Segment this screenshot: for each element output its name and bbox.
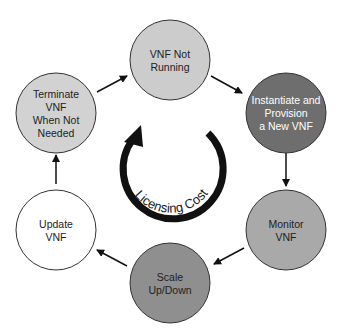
node-label-line: Needed xyxy=(38,127,75,139)
edge-monitor-to-scale xyxy=(214,248,244,264)
edge-scale-to-update xyxy=(97,250,127,266)
nodes: VNF NotRunningInstantiate andProvisiona … xyxy=(16,20,326,323)
node-update: UpdateVNF xyxy=(16,190,96,270)
node-label-line: Instantiate and xyxy=(252,94,321,106)
node-label-line: VNF xyxy=(46,231,67,243)
node-label-line: Up/Down xyxy=(148,284,191,296)
node-label-line: Terminate xyxy=(33,88,79,100)
node-instantiate: Instantiate andProvisiona New VNF xyxy=(246,73,326,153)
edge-not-running-to-instantiate xyxy=(211,76,242,93)
node-not-running: VNF NotRunning xyxy=(130,20,210,100)
node-label-line: Update xyxy=(39,218,73,230)
node-label-line: Provision xyxy=(264,107,307,119)
node-label-line: When Not xyxy=(33,114,80,126)
node-label-line: Monitor xyxy=(268,218,304,230)
node-label-line: VNF xyxy=(276,231,297,243)
licensing-cost-cycle: Licensing Cost xyxy=(123,125,223,219)
node-scale: ScaleUp/Down xyxy=(130,243,210,323)
edge-terminate-to-not-running xyxy=(97,76,127,92)
node-monitor: MonitorVNF xyxy=(246,190,326,270)
node-label-line: Running xyxy=(150,61,189,73)
node-label-line: a New VNF xyxy=(259,120,313,132)
node-label-line: VNF Not xyxy=(150,48,190,60)
node-terminate: TerminateVNFWhen NotNeeded xyxy=(16,73,96,153)
lifecycle-diagram: Licensing Cost VNF NotRunningInstantiate… xyxy=(0,0,340,334)
node-label-line: VNF xyxy=(46,101,67,113)
node-label-line: Scale xyxy=(157,271,183,283)
